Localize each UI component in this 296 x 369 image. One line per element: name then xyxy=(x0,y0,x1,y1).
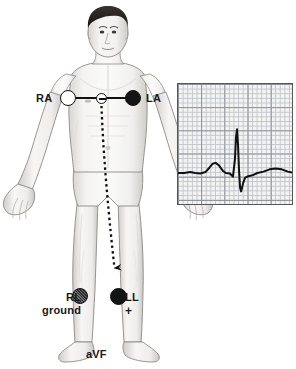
label-rl-ground: RL ground xyxy=(42,291,81,316)
ecg-waveform-panel xyxy=(177,83,293,205)
label-rl-ground-text: ground xyxy=(42,304,81,317)
ecg-trace xyxy=(178,84,293,205)
label-lead-name: aVF xyxy=(86,348,107,361)
electrode-la[interactable] xyxy=(125,90,141,106)
label-rl-text: RL xyxy=(66,291,81,303)
minus-sign-icon xyxy=(99,98,106,100)
label-ll-text: LL xyxy=(125,291,139,303)
electrode-reference-negative[interactable] xyxy=(96,93,107,104)
electrode-ra[interactable] xyxy=(60,90,76,106)
ecg-lead-avf-diagram: RA LA RL ground LL + aVF xyxy=(0,0,296,369)
label-la: LA xyxy=(146,92,161,105)
label-ll: LL + xyxy=(125,291,139,319)
label-ll-polarity: + xyxy=(125,304,139,320)
label-ra: RA xyxy=(36,92,52,105)
